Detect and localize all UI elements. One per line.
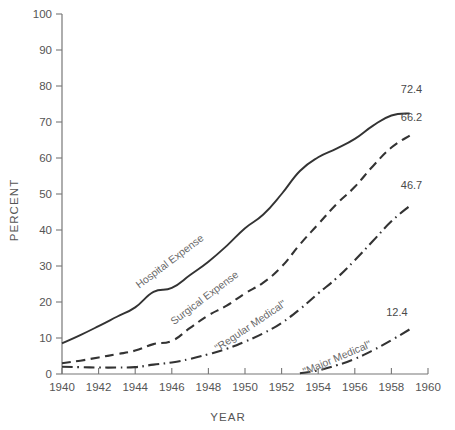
x-axis-tick-label: 1940 (49, 381, 75, 393)
x-axis-tick-label: 1946 (159, 381, 185, 393)
x-axis-tick-label: 1956 (342, 381, 368, 393)
series-end-value-label: 12.4 (386, 306, 407, 318)
percent-by-year-line-chart: 0102030405060708090100 19401942194419461… (0, 0, 455, 430)
series-end-value-label: 66.2 (401, 111, 422, 123)
y-axis-tick-label: 100 (33, 8, 52, 20)
x-axis-tick-label: 1960 (415, 381, 441, 393)
y-axis-tick-label: 20 (39, 296, 52, 308)
series-end-value-label: 72.4 (401, 83, 422, 95)
y-axis-tick-label: 0 (46, 368, 52, 380)
x-axis-tick-label: 1944 (122, 381, 148, 393)
y-axis-tick-label: 50 (39, 188, 52, 200)
x-axis-tick-label: 1948 (196, 381, 222, 393)
x-axis-tick-label: 1942 (86, 381, 112, 393)
series-end-value-label: 46.7 (401, 179, 422, 191)
x-axis-tick-label: 1954 (305, 381, 331, 393)
y-axis-tick-label: 90 (39, 44, 52, 56)
y-axis-tick-label: 10 (39, 332, 52, 344)
x-axis-tick-label: 1958 (379, 381, 405, 393)
y-axis-tick-label: 70 (39, 116, 52, 128)
chart-container: 0102030405060708090100 19401942194419461… (0, 0, 455, 430)
y-axis-title: PERCENT (8, 179, 20, 242)
x-axis-tick-label: 1952 (269, 381, 295, 393)
y-axis-tick-label: 80 (39, 80, 52, 92)
x-axis-tick-label: 1950 (232, 381, 258, 393)
x-axis-title: YEAR (210, 411, 246, 423)
y-axis-tick-label: 40 (39, 224, 52, 236)
y-axis-tick-label: 60 (39, 152, 52, 164)
chart-background (0, 0, 455, 430)
y-axis-tick-label: 30 (39, 260, 52, 272)
